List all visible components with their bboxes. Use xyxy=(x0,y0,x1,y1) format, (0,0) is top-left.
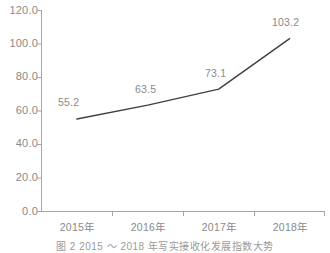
data-series-line xyxy=(77,39,290,119)
data-label-2018: 103.2 xyxy=(272,16,299,28)
y-axis-ticks xyxy=(37,11,42,212)
data-label-2015: 55.2 xyxy=(58,96,79,108)
data-label-2017: 73.1 xyxy=(205,67,226,79)
figure-caption: 图 2 2015 ～ 2018 年写实接收化发展指数大势 xyxy=(0,238,330,253)
data-label-2016: 63.5 xyxy=(135,83,156,95)
x-tick-label-2015: 2015年 xyxy=(46,219,108,234)
x-tick-label-2017: 2017年 xyxy=(188,219,250,234)
x-tick-label-2018: 2018年 xyxy=(259,219,321,234)
x-axis-ticks xyxy=(113,212,325,217)
x-tick-label-2016: 2016年 xyxy=(117,219,179,234)
